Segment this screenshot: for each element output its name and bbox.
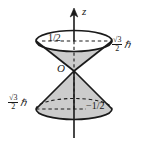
upper-magnitude-hbar: ℏ bbox=[122, 40, 130, 50]
upper-magnitude-fraction: √3 2 bbox=[112, 36, 122, 54]
lower-magnitude-hbar: ℏ bbox=[18, 98, 26, 108]
lower-magnitude-label: √3 2 ℏ bbox=[8, 94, 26, 112]
lower-magnitude-fraction: √3 2 bbox=[8, 94, 18, 112]
origin-label: O bbox=[57, 63, 65, 74]
upper-magnitude-label: √3 2 ℏ bbox=[112, 36, 130, 54]
upper-z-component-label: 1/2 bbox=[48, 33, 61, 43]
cone-diagram-svg bbox=[0, 0, 148, 145]
lower-z-component-label: −1/2 bbox=[86, 101, 104, 111]
lower-magnitude-denominator: 2 bbox=[8, 103, 18, 111]
upper-magnitude-denominator: 2 bbox=[112, 45, 122, 53]
z-axis-label: z bbox=[82, 6, 86, 17]
angular-momentum-cone-figure: z O 1/2 −1/2 √3 2 ℏ √3 2 ℏ bbox=[0, 0, 148, 145]
